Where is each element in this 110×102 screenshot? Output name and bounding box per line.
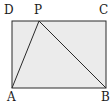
rectangle-abcd [12,21,106,88]
vertex-label-d: D [4,3,14,17]
vertex-label-p: P [34,3,42,17]
vertex-label-a: A [6,90,16,102]
vertex-label-b: B [101,90,110,102]
geometry-diagram: D P C A B [0,0,110,102]
vertex-label-c: C [99,3,108,17]
